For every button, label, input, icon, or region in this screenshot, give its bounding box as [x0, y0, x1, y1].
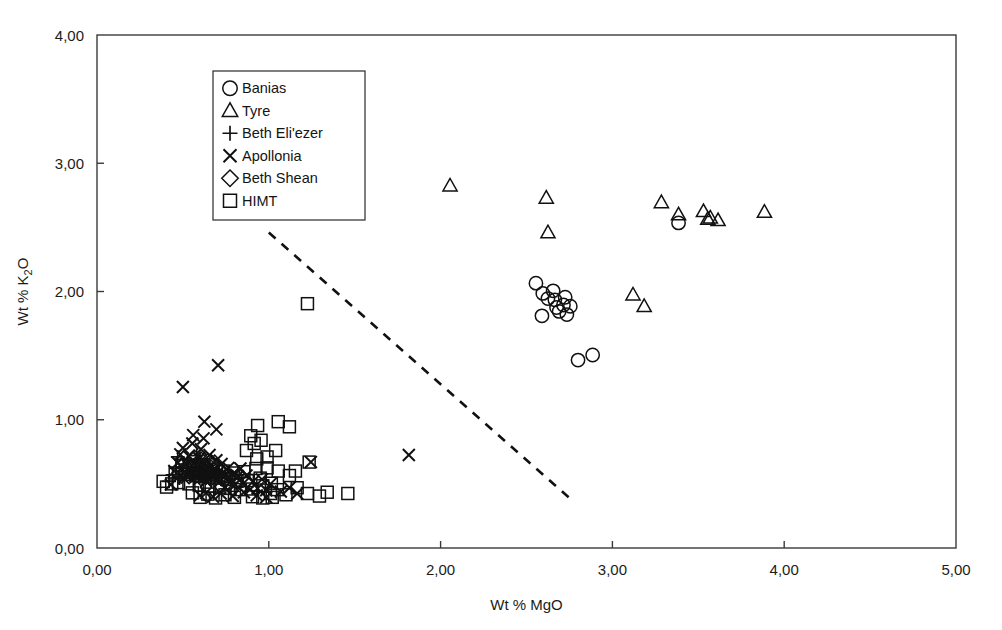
y-tick-label: 4,00: [55, 27, 84, 44]
x-tick-label: 1,00: [254, 561, 283, 578]
y-tick-label: 2,00: [55, 283, 84, 300]
x-tick-label: 5,00: [941, 561, 970, 578]
legend-item-label: Banias: [242, 80, 286, 96]
legend[interactable]: BaniasTyreBeth Eli'ezerApolloniaBeth She…: [213, 71, 365, 220]
legend-item-label: Beth Eli'ezer: [242, 125, 323, 141]
legend-item-label: Apollonia: [242, 148, 303, 164]
legend-item-label: Beth Shean: [242, 170, 318, 186]
y-tick-label: 3,00: [55, 155, 84, 172]
chart-background: [0, 0, 1002, 630]
x-axis-title: Wt % MgO: [490, 596, 563, 613]
x-tick-label: 3,00: [598, 561, 627, 578]
x-tick-label: 4,00: [770, 561, 799, 578]
y-tick-label: 1,00: [55, 411, 84, 428]
legend-item-label: Tyre: [242, 103, 270, 119]
x-tick-label: 2,00: [426, 561, 455, 578]
chart-canvas: 0,001,002,003,004,000,001,002,003,004,00…: [0, 0, 1002, 630]
x-tick-label: 0,00: [82, 561, 111, 578]
y-tick-label: 0,00: [55, 540, 84, 557]
scatter-plot-figure: 0,001,002,003,004,000,001,002,003,004,00…: [0, 0, 1002, 630]
legend-item-label: HIMT: [242, 193, 278, 209]
